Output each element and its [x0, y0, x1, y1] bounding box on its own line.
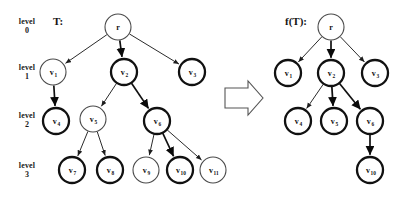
right-tree-node-v3: v3 [362, 60, 388, 86]
left-tree-node-label-r: r [116, 23, 120, 32]
left-tree-node-v2: v2 [111, 59, 137, 85]
left-tree-node-v10: v10 [167, 157, 193, 183]
right-tree-node-subscript-v10: 10 [371, 170, 377, 176]
left-tree-node-subscript-v6: 6 [158, 121, 161, 127]
left-tree-edge-v6-v10 [163, 133, 174, 156]
right-tree-node-v10: v10 [357, 157, 383, 183]
right-tree-edge-v2-v5 [332, 86, 333, 105]
left-tree-node-subscript-v10: 10 [181, 170, 187, 176]
right-tree-node-subscript-v4: 4 [299, 121, 302, 127]
left-tree-node-subscript-v3: 3 [193, 72, 196, 78]
left-tree-node-subscript-v4: 4 [57, 121, 60, 127]
right-tree-node-v2: v2 [318, 60, 344, 86]
left-tree-node-subscript-v11: 11 [214, 170, 219, 176]
left-tree-node-v5: v5 [80, 106, 106, 132]
left-tree-node-subscript-v8: 8 [111, 170, 114, 176]
left-tree-node-label-v1: v [50, 68, 54, 77]
left-tree-node-label-v9: v [143, 166, 147, 175]
right-tree-node-v5: v5 [321, 108, 347, 134]
trees-svg: rv1v2v3v4v5v6v7v8v9v10v11 rv1v2v3v4v5v6v… [0, 0, 410, 198]
right-block-arrow [225, 81, 263, 115]
left-tree-edge-v5-v7 [78, 131, 88, 155]
left-tree-node-r: r [105, 14, 131, 40]
right-tree-node-subscript-v5: 5 [335, 121, 338, 127]
right-tree-node-subscript-v3: 3 [376, 73, 379, 79]
left-tree-edge-v6-v9 [149, 134, 154, 155]
left-tree-node-v6: v6 [144, 108, 170, 134]
right-tree-edges [298, 37, 370, 155]
left-tree-node-subscript-v5: 5 [94, 119, 97, 125]
left-tree-node-v4: v4 [43, 108, 69, 134]
left-tree-node-v3: v3 [179, 59, 205, 85]
left-tree-nodes: rv1v2v3v4v5v6v7v8v9v10v11 [40, 14, 226, 183]
right-tree-node-label-v10: v [366, 166, 370, 175]
tree-transformation-figure: level 0 level 1 level 2 level 3 T: f(T):… [0, 0, 410, 198]
right-tree-node-subscript-v2: 2 [332, 73, 335, 79]
right-tree-node-label-v5: v [331, 117, 335, 126]
right-tree-node-label-v3: v [372, 69, 376, 78]
right-tree-edge-v2-v4 [307, 84, 324, 108]
left-tree-node-v1: v1 [40, 59, 66, 85]
left-tree-node-label-v6: v [154, 117, 158, 126]
left-tree-node-label-v4: v [53, 117, 57, 126]
left-tree-edge-r-v3 [130, 34, 179, 64]
left-tree-edge-r-v2 [120, 40, 122, 57]
right-tree-node-label-v2: v [328, 69, 332, 78]
left-tree-node-label-v10: v [176, 166, 180, 175]
left-tree-node-label-v2: v [121, 68, 125, 77]
left-tree-node-v8: v8 [97, 157, 123, 183]
left-tree-edges [54, 34, 202, 160]
right-tree-node-r: r [318, 14, 344, 40]
right-tree-node-v1: v1 [275, 60, 301, 86]
right-tree-edge-v2-v6 [340, 83, 361, 109]
right-tree-node-subscript-v6: 6 [371, 121, 374, 127]
left-tree-edge-v2-v5 [101, 83, 116, 106]
right-tree-node-v4: v4 [285, 108, 311, 134]
right-tree-edge-r-v1 [298, 37, 321, 62]
right-tree-nodes: rv1v2v3v4v5v6v10 [275, 14, 388, 183]
left-tree-node-v11: v11 [200, 157, 226, 183]
left-tree-node-subscript-v9: 9 [147, 170, 150, 176]
right-tree-node-label-v1: v [285, 69, 289, 78]
left-tree-node-subscript-v7: 7 [73, 170, 76, 176]
left-tree-node-v7: v7 [59, 157, 85, 183]
right-tree-edge-r-v3 [340, 37, 364, 62]
right-tree-node-v6: v6 [357, 108, 383, 134]
left-tree-node-v9: v9 [133, 157, 159, 183]
right-tree-node-subscript-v1: 1 [289, 73, 292, 79]
left-tree-edge-v2-v6 [132, 83, 149, 108]
right-tree-node-label-v4: v [295, 117, 299, 126]
left-tree-node-label-v11: v [209, 166, 213, 175]
left-tree-edge-v5-v8 [97, 132, 105, 156]
left-tree-node-subscript-v1: 1 [54, 72, 57, 78]
right-tree-node-label-r: r [329, 23, 333, 32]
left-tree-node-label-v3: v [189, 68, 193, 77]
left-tree-edge-r-v1 [65, 35, 106, 64]
left-tree-node-label-v5: v [90, 115, 94, 124]
left-tree-edge-v1-v4 [54, 85, 55, 105]
left-tree-node-label-v7: v [69, 166, 73, 175]
left-tree-node-label-v8: v [107, 166, 111, 175]
left-tree-node-subscript-v2: 2 [125, 72, 128, 78]
right-tree-node-label-v6: v [367, 117, 371, 126]
